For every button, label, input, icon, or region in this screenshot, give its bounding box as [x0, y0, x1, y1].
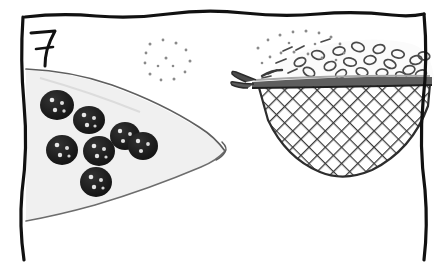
berry — [46, 135, 78, 165]
panel-illustration — [0, 0, 444, 262]
berry — [80, 167, 112, 197]
comic-panel: 7 — [0, 0, 444, 262]
berry — [73, 106, 105, 134]
berry — [83, 136, 115, 166]
berry — [40, 90, 74, 120]
berry — [128, 132, 158, 160]
